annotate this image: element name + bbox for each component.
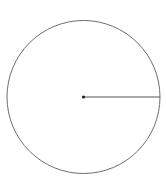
circle-diagram xyxy=(0,0,166,190)
center-point xyxy=(82,95,85,98)
